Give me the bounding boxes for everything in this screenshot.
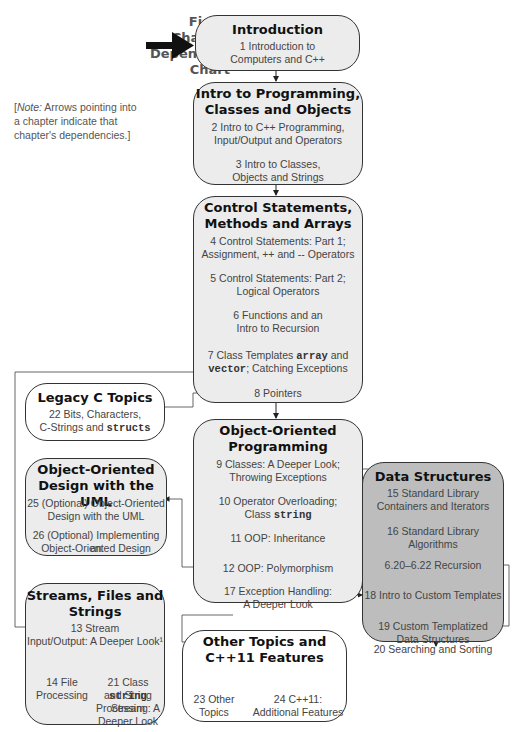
box-header: C++11 Features [183,650,346,666]
note-label: Note: [17,101,42,113]
box-header: Programming [194,439,362,455]
chapter-25: 25 (Optional) Object-Oriented [26,497,166,510]
chapter-26-cont: Object-Oriented Design [26,542,166,555]
chapter-3-cont: Objects and Strings [194,171,362,184]
box-header: Other Topics and [183,634,346,650]
chapter-13: 13 Stream [26,622,164,635]
chapter-4-cont: Assignment, ++ and -- Operators [194,248,362,261]
box-header: Data Structures [363,469,503,485]
chapter-23: 23 Other [189,693,239,706]
chapter-8: 8 Pointers [194,387,362,400]
code-vector: vector [208,363,246,375]
box-header: Object-Oriented [194,423,362,439]
chapter-7-cont: vector; Catching Exceptions [194,362,362,376]
chapter-13-cont: Input/Output: A Deeper Look¹ [26,635,164,648]
chapter-7-text: ; Catching Exceptions [246,362,348,374]
chapter-12: 12 OOP: Polymorphism [194,562,362,575]
chapter-15-cont: Containers and Iterators [363,500,503,513]
chapter-18: 18 Intro to Custom Templates [363,589,503,602]
chapter-15: 15 Standard Library [363,487,503,500]
box-control-statements: Control Statements, Methods and Arrays 4… [193,196,363,403]
code-string: string [274,509,312,521]
chapter-5-cont: Logical Operators [194,285,362,298]
box-oop: Object-Oriented Programming 9 Classes: A… [193,419,363,603]
chapter-23-cont: Topics [189,706,239,719]
chapter-9: 9 Classes: A Deeper Look; [194,458,362,471]
box-uml: Object-Oriented Design with the UML 25 (… [25,458,167,556]
box-header: Methods and Arrays [194,216,362,232]
chapter-21-text: 21 Class [108,676,149,688]
chapter-6-cont: Intro to Recursion [194,322,362,335]
chapter-5: 5 Control Statements: Part 2; [194,272,362,285]
chapter-22-cont: C-Strings and structs [26,421,164,435]
code-structs: structs [107,422,151,434]
chapter-6: 6 Functions and an [194,309,362,322]
box-header: Control Statements, [194,200,362,216]
box-header: Object-Oriented [26,462,166,478]
chapter-4: 4 Control Statements: Part 1; [194,235,362,248]
chapter-11: 11 OOP: Inheritance [194,532,362,545]
box-header: Streams, Files and [26,588,164,604]
box-header: Legacy C Topics [26,390,164,406]
chapter-19: 19 Custom Templatized [363,620,503,633]
chapter-22-text: C-Strings and [39,421,106,433]
code-array: array [296,350,328,362]
chapter-3: 3 Intro to Classes, [194,158,362,171]
chapter-2: 2 Intro to C++ Programming, [194,121,362,134]
chapter-7-text: 7 Class Templates [208,349,297,361]
box-introduction: Introduction 1 Introduction to Computers… [195,15,360,71]
chapter-10: 10 Operator Overloading; [194,495,362,508]
box-data-structures: Data Structures 15 Standard Library Cont… [362,462,504,642]
chapter-21-cont: Deeper Look [88,715,168,728]
chapter-1: 1 Introduction to [196,40,359,53]
box-header: Intro to Programming, [194,86,362,102]
box-header: Introduction [196,22,359,38]
figure-note: [Note: Arrows pointing into a chapter in… [14,100,144,142]
chapter-22: 22 Bits, Characters, [26,408,164,421]
chapter-10-cont: Class string [194,508,362,522]
chapter-25-cont: Design with the UML [26,510,166,523]
chapter-16: 16 Standard Library Algorithms [363,525,503,551]
chapter-2-cont: Input/Output and Operators [194,134,362,147]
chapter-10-text: Class [245,508,274,520]
chapter-14-cont: Processing [34,689,90,702]
chapter-7: 7 Class Templates array and [194,349,362,363]
chapter-9-cont: Throwing Exceptions [194,471,362,484]
box-intro-programming: Intro to Programming, Classes and Object… [193,82,363,185]
box-streams: Streams, Files and Strings 13 Stream Inp… [25,583,165,725]
box-header: Strings [26,604,164,620]
chapter-24-cont: Additional Features [251,706,345,719]
chapter-21-cont: Processing: A [88,702,168,715]
chapter-14: 14 File [34,676,90,689]
box-legacy-c: Legacy C Topics 22 Bits, Characters, C-S… [25,383,165,441]
chapter-7-text: and [328,349,348,361]
chapter-20: 20 Searching and Sorting [362,643,504,656]
chapter-24: 24 C++11: [251,693,345,706]
box-header: Classes and Objects [194,102,362,118]
chapter-17: 17 Exception Handling: [194,585,362,598]
chapter-17-cont: A Deeper Look [194,598,362,611]
box-other-topics: Other Topics and C++11 Features 23 Other… [182,630,347,722]
chapter-1-cont: Computers and C++ [196,53,359,66]
section-6-20-recursion: 6.20–6.22 Recursion [363,559,503,572]
